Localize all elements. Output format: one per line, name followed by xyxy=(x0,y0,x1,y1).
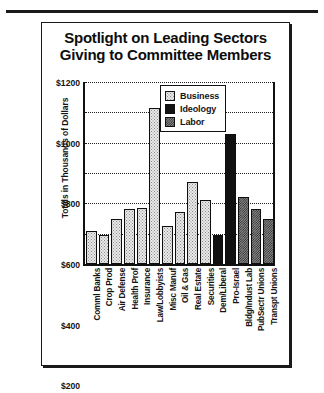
chart-figure-box: Spotlight on Leading Sectors Giving to C… xyxy=(41,22,290,366)
y-axis-label: Totals in Thousands of Dollars xyxy=(60,83,70,233)
x-axis-tick-label: PubSectr Unions xyxy=(257,268,266,331)
chart-legend: Business Ideology Labor xyxy=(160,85,226,132)
bar-pro-israel xyxy=(225,134,236,264)
x-axis-tick-label: Insurance xyxy=(143,268,152,305)
x-axis-tick-label: Transpt Unions xyxy=(270,268,279,325)
x-axis-tick-label: Bldg/Indust Lab xyxy=(245,268,254,327)
x-axis-tick-label: Oil & Gas xyxy=(181,268,190,303)
bar-misc-manuf xyxy=(162,226,173,264)
y-axis-tick-label: $800 xyxy=(61,199,80,209)
bar-dem-liberal xyxy=(213,235,224,264)
bar-law-lobbyists xyxy=(149,108,160,264)
legend-swatch-ideology-icon xyxy=(165,104,175,114)
bar-insurance xyxy=(137,208,148,264)
bar-crop-prod xyxy=(99,235,110,264)
y-axis-tick-label: $600 xyxy=(61,260,80,270)
legend-item-business: Business xyxy=(165,89,219,102)
y-axis-tick-label: $1200 xyxy=(56,78,80,88)
legend-item-labor: Labor xyxy=(165,115,219,128)
y-axis-tick-label: $400 xyxy=(61,321,80,331)
legend-label-labor: Labor xyxy=(180,117,205,127)
x-axis-tick-label: Misc Manuf xyxy=(169,268,178,311)
x-axis-tick-label: Real Estate xyxy=(194,268,203,310)
legend-swatch-business-icon xyxy=(165,91,175,101)
legend-item-ideology: Ideology xyxy=(165,102,219,115)
x-axis-tick-label: Crop Prod xyxy=(105,268,114,306)
x-axis-tick-label: Dem/Liberal xyxy=(219,268,228,313)
page-rule xyxy=(6,10,318,13)
plot-right-spine xyxy=(273,82,275,266)
legend-label-ideology: Ideology xyxy=(180,104,216,114)
bar-health-prof xyxy=(124,209,135,264)
bar-securities xyxy=(200,200,211,264)
bar-air-defense xyxy=(111,219,122,265)
bar-comml-banks xyxy=(86,231,97,264)
x-axis-tick-label: Pro-Israel xyxy=(232,268,241,304)
bar-bldg-indust-lab xyxy=(238,197,249,264)
bar-oil-gas xyxy=(175,212,186,264)
y-axis-tick-label: $200 xyxy=(61,381,80,391)
legend-label-business: Business xyxy=(180,91,219,101)
x-axis-tick-label: Health Prof xyxy=(131,268,140,309)
x-axis-tick-label: Securities xyxy=(207,268,216,305)
x-axis-tick-label: Air Defense xyxy=(118,268,127,311)
bar-real-estate xyxy=(187,182,198,264)
x-axis-label-group: Comml BanksCrop ProdAir DefenseHealth Pr… xyxy=(83,268,273,364)
x-axis-tick-label: Law/Lobbyists xyxy=(156,268,165,322)
x-axis-tick-label: Comml Banks xyxy=(93,268,102,320)
bar-pubsectr-unions xyxy=(251,209,262,264)
y-axis-tick-label: $1000 xyxy=(56,139,80,149)
legend-swatch-labor-icon xyxy=(165,117,175,127)
figure-container: Spotlight on Leading Sectors Giving to C… xyxy=(0,0,324,393)
plot-wrapper: Totals in Thousands of Dollars $1200$100… xyxy=(42,23,289,365)
